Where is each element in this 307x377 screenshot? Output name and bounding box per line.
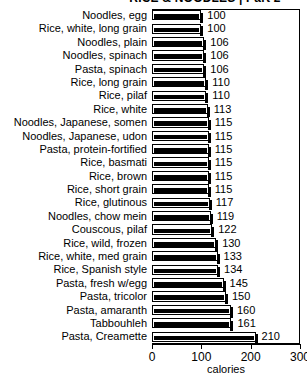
bar-body: [152, 305, 231, 315]
bar-row: Noodles, plain106: [0, 36, 307, 49]
bar-body: [152, 278, 224, 288]
category-label: Rice, white, med grain: [38, 250, 147, 263]
bar: [152, 144, 209, 155]
bar: [152, 64, 204, 75]
bar: [152, 184, 209, 195]
bar: [152, 332, 256, 343]
x-tick: [251, 344, 252, 349]
bar-body: [152, 198, 210, 208]
bar: [152, 117, 209, 128]
bar: [152, 265, 218, 276]
bar-row: Pasta, amaranth160: [0, 304, 307, 317]
bar: [152, 318, 231, 329]
bar-chart: RICE & NOODLES | Part 2 Noodles, egg100R…: [0, 0, 307, 377]
value-label: 110: [212, 89, 230, 102]
bar-body: [152, 64, 204, 74]
bar-row: Couscous, pilaf122: [0, 223, 307, 236]
category-label: Noodles, Japanese, somen: [14, 116, 147, 129]
bar-row: Noodles, spinach106: [0, 49, 307, 62]
bar-body: [152, 144, 209, 154]
bar-body: [152, 117, 209, 127]
bar-row: Rice, white113: [0, 103, 307, 116]
bar-body: [152, 157, 209, 167]
bar-body: [152, 37, 204, 47]
bar-row: Rice, long grain110: [0, 76, 307, 89]
bar-shadow-cap: [255, 334, 258, 344]
value-label: 113: [214, 103, 232, 116]
value-label: 122: [218, 223, 236, 236]
bar-body: [152, 318, 231, 328]
value-label: 133: [224, 250, 242, 263]
category-label: Pasta, spinach: [75, 63, 147, 76]
chart-title: RICE & NOODLES | Part 2: [110, 0, 300, 5]
bar-body: [152, 265, 218, 275]
value-label: 115: [215, 156, 233, 169]
bar: [152, 91, 206, 102]
category-label: Rice, basmati: [80, 156, 147, 169]
bar-row: Pasta, spinach106: [0, 63, 307, 76]
bar-row: Tabbouhleh161: [0, 317, 307, 330]
x-tick-label: 200: [231, 350, 271, 364]
bar-body: [152, 10, 201, 20]
value-label: 115: [215, 143, 233, 156]
value-label: 134: [224, 263, 242, 276]
value-label: 145: [230, 277, 248, 290]
bar-row: Noodles, egg100: [0, 9, 307, 22]
category-label: Tabbouhleh: [90, 317, 147, 330]
bar: [152, 10, 201, 21]
bar-row: Rice, short grain115: [0, 183, 307, 196]
bar-body: [152, 184, 209, 194]
bar-body: [152, 224, 212, 234]
bar-row: Rice, Spanish style134: [0, 263, 307, 276]
bar: [152, 131, 209, 142]
bar-body: [152, 24, 201, 34]
bar-row: Noodles, chow mein119: [0, 210, 307, 223]
bar: [152, 104, 208, 115]
value-label: 115: [215, 183, 233, 196]
value-label: 106: [210, 63, 228, 76]
value-label: 150: [232, 290, 250, 303]
category-label: Rice, white, long grain: [39, 22, 147, 35]
category-label: Pasta, Creamette: [61, 330, 147, 343]
value-label: 100: [207, 9, 225, 22]
bar-row: Rice, white, med grain133: [0, 250, 307, 263]
value-label: 160: [237, 304, 255, 317]
value-label: 106: [210, 49, 228, 62]
bar-body: [152, 77, 206, 87]
bar-row: Noodles, Japanese, udon115: [0, 130, 307, 143]
bar-row: Pasta, protein-fortified115: [0, 143, 307, 156]
bar: [152, 157, 209, 168]
bar-body: [152, 171, 209, 181]
bar-row: Rice, wild, frozen130: [0, 237, 307, 250]
bar: [152, 171, 209, 182]
value-label: 117: [216, 196, 234, 209]
bar-row: Rice, basmati115: [0, 156, 307, 169]
bar: [152, 77, 206, 88]
bar: [152, 251, 218, 262]
category-label: Rice, pilaf: [99, 89, 147, 102]
x-tick-label: 0: [132, 350, 172, 364]
bar-body: [152, 131, 209, 141]
category-label: Pasta, amaranth: [66, 304, 147, 317]
bar-row: Rice, pilaf110: [0, 89, 307, 102]
value-label: 115: [215, 116, 233, 129]
category-label: Rice, brown: [89, 170, 147, 183]
x-tick-label: 100: [181, 350, 221, 364]
category-label: Rice, long grain: [71, 76, 147, 89]
category-label: Rice, glutinous: [75, 196, 147, 209]
category-label: Noodles, plain: [77, 36, 147, 49]
x-tick: [201, 344, 202, 349]
bar: [152, 50, 204, 61]
bar-body: [152, 50, 204, 60]
value-label: 130: [222, 237, 240, 250]
bar: [152, 305, 231, 316]
bar: [152, 198, 210, 209]
bar: [152, 238, 216, 249]
x-tick-label: 300: [280, 350, 307, 364]
category-label: Pasta, protein-fortified: [39, 143, 147, 156]
bar: [152, 211, 211, 222]
category-label: Couscous, pilaf: [72, 223, 147, 236]
bar-row: Pasta, fresh w/egg145: [0, 277, 307, 290]
bar: [152, 291, 226, 302]
x-tick: [152, 344, 153, 349]
